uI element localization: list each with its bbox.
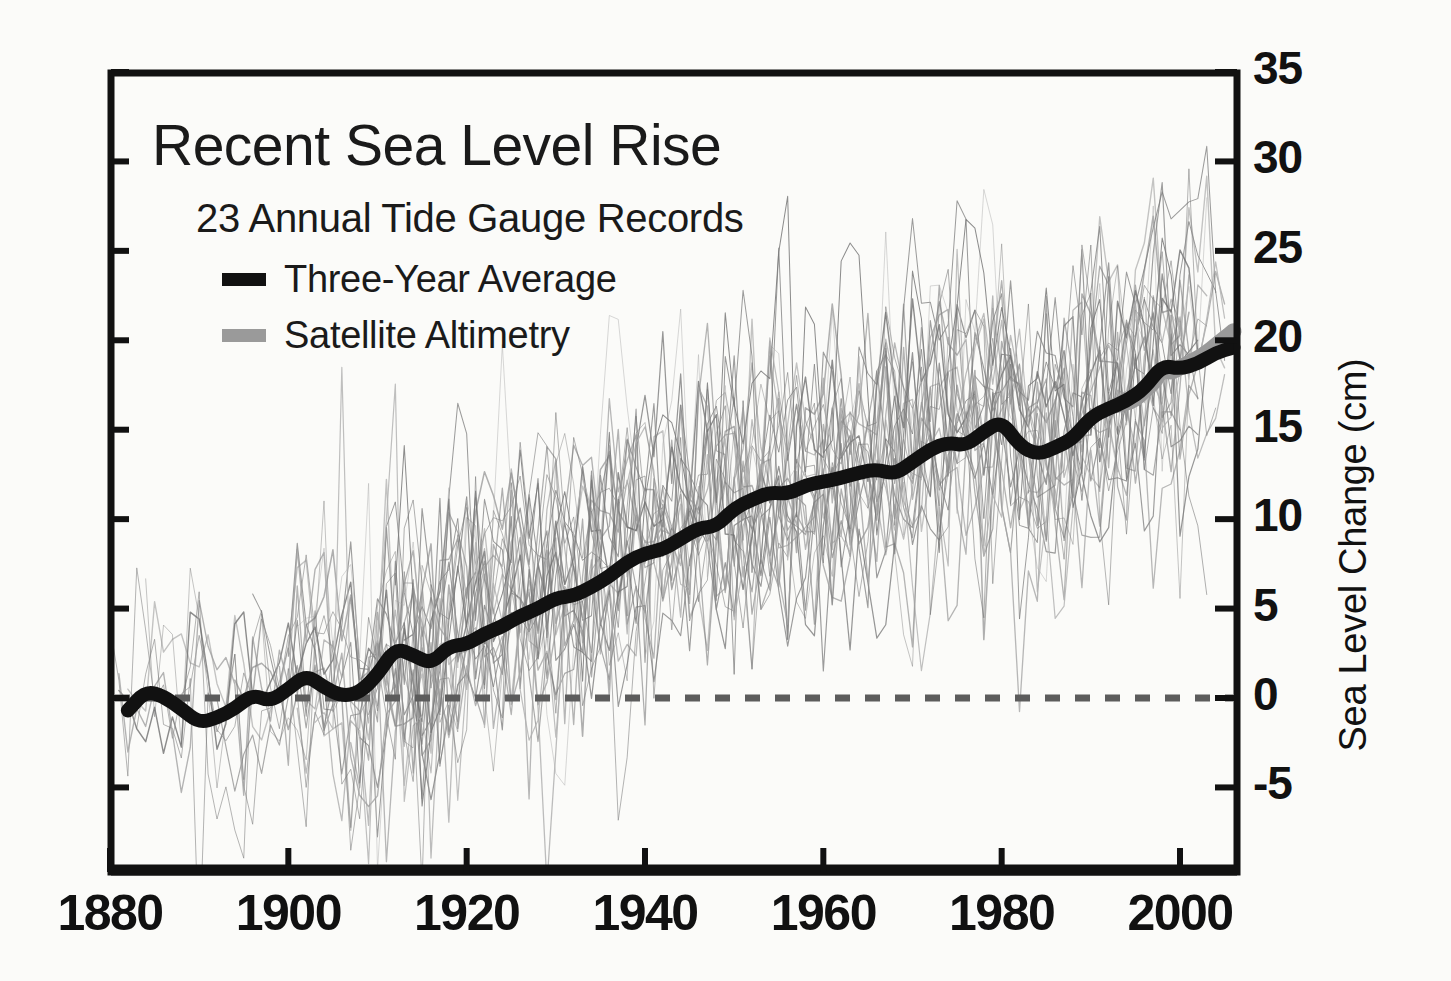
x-tick-label: 1960 (723, 884, 923, 942)
legend-entry-satellite-altimetry: Satellite Altimetry (222, 314, 570, 357)
x-tick-label: 1940 (545, 884, 745, 942)
legend-label-satellite-altimetry: Satellite Altimetry (284, 314, 570, 357)
y-tick-label: 15 (1253, 399, 1302, 453)
y-tick-label: 0 (1253, 667, 1278, 721)
legend-entry-three-year-average: Three-Year Average (222, 258, 617, 301)
y-tick-label: -5 (1253, 756, 1292, 810)
legend-swatch-three-year-average (222, 273, 266, 286)
figure-root: Recent Sea Level Rise 23 Annual Tide Gau… (0, 0, 1451, 981)
y-axis-title: Sea Level Change (cm) (1332, 340, 1375, 770)
legend-label-three-year-average: Three-Year Average (284, 258, 617, 301)
legend-swatch-satellite-altimetry (222, 329, 266, 342)
y-tick-label: 25 (1253, 220, 1302, 274)
y-tick-label: 30 (1253, 130, 1302, 184)
x-tick-label: 1980 (902, 884, 1102, 942)
y-tick-label: 20 (1253, 309, 1302, 363)
chart-subtitle: 23 Annual Tide Gauge Records (196, 196, 744, 241)
chart-title: Recent Sea Level Rise (152, 112, 721, 178)
x-tick-label: 2000 (1080, 884, 1280, 942)
y-tick-label: 35 (1253, 41, 1302, 95)
x-tick-label: 1880 (10, 884, 210, 942)
y-tick-label: 5 (1253, 578, 1278, 632)
x-tick-label: 1920 (367, 884, 567, 942)
x-tick-label: 1900 (188, 884, 388, 942)
y-tick-label: 10 (1253, 488, 1302, 542)
